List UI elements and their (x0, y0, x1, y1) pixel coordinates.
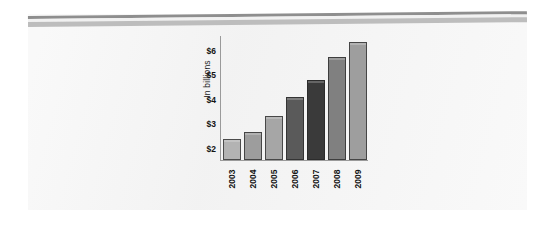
x-tick-label-2003: 2003 (227, 164, 237, 194)
x-tick-label-2007: 2007 (311, 164, 321, 194)
x-axis-line (220, 160, 368, 161)
bar-2009 (349, 42, 367, 160)
bar-2006 (286, 97, 304, 160)
bar-top-highlight (224, 140, 240, 142)
y-tick-label: $6 (192, 46, 216, 55)
x-tick-label-2008: 2008 (332, 164, 342, 194)
page-canvas: In billions $2$3$4$5$6 20032004200520062… (0, 0, 553, 228)
bar-top-highlight (329, 58, 345, 60)
bar-top-highlight (350, 43, 366, 45)
x-tick-label-2006: 2006 (290, 164, 300, 194)
plot-area (221, 36, 368, 160)
bar-2007 (307, 80, 325, 160)
bar-chart: In billions $2$3$4$5$6 20032004200520062… (178, 30, 378, 210)
bar-top-highlight (287, 98, 303, 100)
y-tick-label: $5 (192, 71, 216, 80)
bar-2004 (244, 132, 262, 160)
y-tick-label: $3 (192, 120, 216, 129)
y-axis-tick-labels: $2$3$4$5$6 (192, 30, 216, 162)
y-tick-label: $4 (192, 96, 216, 105)
y-tick-label: $2 (192, 145, 216, 154)
x-tick-label-2009: 2009 (353, 164, 363, 194)
x-tick-label-2004: 2004 (248, 164, 258, 194)
bar-2008 (328, 57, 346, 160)
bar-top-highlight (308, 81, 324, 83)
bar-2005 (265, 116, 283, 160)
x-axis-tick-labels: 2003200420052006200720082009 (221, 162, 368, 208)
bar-2003 (223, 139, 241, 160)
bar-top-highlight (245, 133, 261, 135)
x-tick-label-2005: 2005 (269, 164, 279, 194)
bar-top-highlight (266, 117, 282, 119)
